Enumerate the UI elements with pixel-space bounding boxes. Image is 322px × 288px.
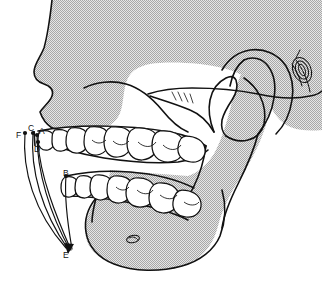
endpoint-F <box>23 131 27 135</box>
tooth-upper-8 <box>178 136 205 162</box>
zygomaticotemporal-suture <box>172 92 193 103</box>
label-A: A <box>39 127 45 136</box>
zygomatic-arch-lower <box>150 96 214 132</box>
figure-canvas: F C A D B E <box>0 0 322 288</box>
label-B: B <box>63 169 69 178</box>
label-F: F <box>16 131 21 140</box>
label-C: C <box>28 124 34 133</box>
label-D: D <box>34 145 40 154</box>
maxillary-teeth <box>38 127 205 162</box>
label-E: E <box>63 251 69 260</box>
skull-diagram <box>0 0 322 288</box>
